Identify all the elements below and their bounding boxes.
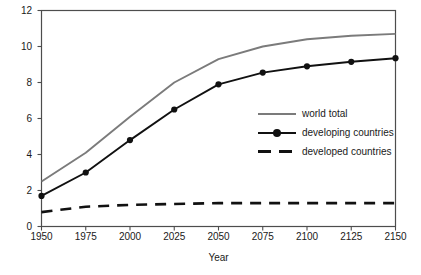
series-marker: [38, 193, 44, 199]
legend-swatch-developed-countries-icon: [258, 146, 296, 158]
series-line-developed-countries: [42, 203, 396, 212]
series-marker: [83, 169, 89, 175]
population-projection-chart: Billions Year 024681012 1950197520002025…: [0, 0, 421, 275]
legend-item-developing-countries: developing countries: [258, 123, 390, 142]
series-marker: [215, 81, 221, 87]
legend-item-developed-countries: developed countries: [258, 142, 390, 161]
legend-label-developing-countries: developing countries: [302, 127, 394, 139]
legend-swatch-world-total-icon: [258, 108, 296, 120]
series-marker: [392, 55, 398, 61]
legend-label-world-total: world total: [302, 108, 348, 120]
series-marker: [127, 137, 133, 143]
series-marker: [348, 59, 354, 65]
chart-legend: world total developing countries develop…: [258, 104, 390, 161]
legend-label-developed-countries: developed countries: [302, 146, 392, 158]
series-marker: [171, 106, 177, 112]
series-marker: [304, 63, 310, 69]
series-marker: [260, 70, 266, 76]
legend-item-world-total: world total: [258, 104, 390, 123]
legend-swatch-developing-countries-icon: [258, 127, 296, 139]
